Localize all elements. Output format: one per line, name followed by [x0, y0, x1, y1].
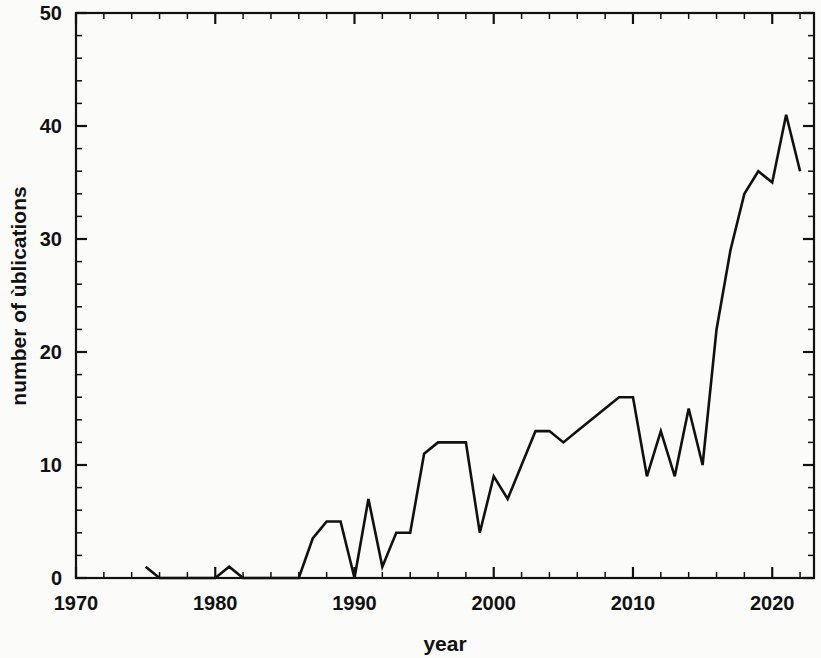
x-tick-label: 1970	[54, 592, 99, 614]
y-tick-label: 10	[40, 454, 62, 476]
publications-per-year-line-chart: 01020304050 197019801990200020102020 num…	[0, 0, 821, 658]
y-axis-label: number of ùblications	[7, 186, 30, 405]
figure-background	[0, 0, 821, 658]
y-tick-label: 30	[40, 228, 62, 250]
x-tick-label: 2010	[611, 592, 656, 614]
chart-figure: 01020304050 197019801990200020102020 num…	[0, 0, 821, 658]
y-tick-label: 50	[40, 2, 62, 24]
x-tick-label: 2000	[471, 592, 516, 614]
x-tick-label: 2020	[750, 592, 795, 614]
x-tick-label: 1990	[332, 592, 377, 614]
x-tick-label: 1980	[193, 592, 238, 614]
x-axis-label: year	[423, 632, 466, 655]
y-tick-label: 0	[51, 567, 62, 589]
y-tick-label: 20	[40, 341, 62, 363]
y-tick-label: 40	[40, 115, 62, 137]
